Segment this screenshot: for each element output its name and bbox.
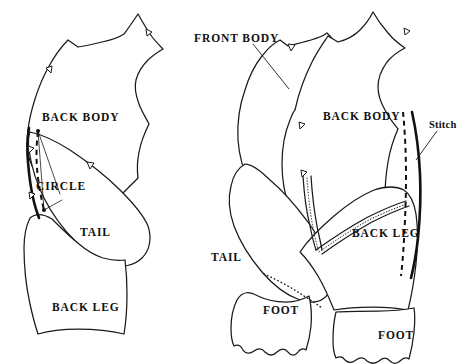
label-left-back-leg: BACK LEG [52,302,120,314]
label-right-foot-right: FOOT [378,330,414,342]
label-left-back-body: BACK BODY [42,112,119,124]
pattern-diagram-figure: BACK BODY CIRCLE TAIL BACK LEG FRONT BOD… [0,0,473,364]
right-foot-left-outline [231,293,311,355]
left-circle-dot-bottom [42,208,46,212]
right-notch-back-neck [404,28,410,35]
right-assembled-pattern-group [229,12,437,363]
label-right-stitch: Stitch [429,120,456,131]
label-right-back-leg: BACK LEG [352,228,420,240]
label-right-front-body: FRONT BODY [194,33,279,45]
stitch-leader-line [416,131,437,160]
left-circle-dot-top [36,129,40,133]
label-right-foot-left: FOOT [263,305,299,317]
label-right-back-body: BACK BODY [323,111,400,123]
label-left-tail: TAIL [80,227,111,239]
label-right-tail: TAIL [211,252,242,264]
left-flat-pattern-group [24,14,163,334]
label-left-circle: CIRCLE [36,181,86,193]
